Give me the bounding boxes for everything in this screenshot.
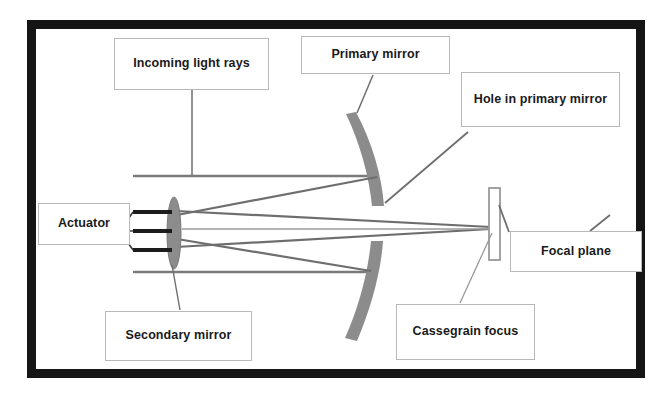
- reflected-ray-lower: [177, 239, 371, 271]
- focal-plane-plate: [489, 188, 500, 260]
- reflected-ray-upper: [177, 177, 377, 215]
- primary-mirror-lower-arc: [345, 241, 383, 341]
- leader-primary-mirror: [357, 75, 373, 113]
- leader-cassegrain-focus: [460, 233, 492, 303]
- primary-mirror-upper-arc: [346, 112, 384, 206]
- focal-plane-group: [489, 188, 500, 260]
- label-incoming-light-rays: Incoming light rays: [114, 38, 269, 90]
- primary-mirror-group: [345, 112, 384, 341]
- leader-hole-in-primary: [385, 132, 468, 203]
- label-secondary-mirror: Secondary mirror: [105, 311, 252, 361]
- diagram-page: Incoming light rays Primary mirror Hole …: [0, 0, 667, 407]
- converging-ray-upper: [176, 211, 491, 227]
- label-hole-in-primary-mirror: Hole in primary mirror: [461, 72, 620, 127]
- leader-focal-plane-outer: [590, 215, 610, 231]
- label-cassegrain-focus: Cassegrain focus: [396, 304, 535, 360]
- label-primary-mirror: Primary mirror: [301, 36, 450, 74]
- converging-ray-lower: [176, 229, 491, 247]
- secondary-to-focal-rays: [176, 211, 491, 247]
- primary-to-secondary-rays: [177, 177, 377, 271]
- label-actuator: Actuator: [38, 203, 130, 245]
- label-focal-plane: Focal plane: [510, 231, 642, 272]
